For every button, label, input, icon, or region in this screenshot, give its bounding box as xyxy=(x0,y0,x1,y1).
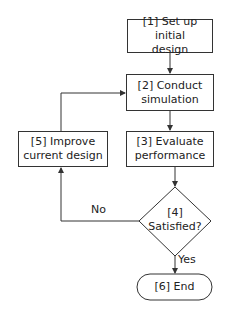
arrow-5-to-2 xyxy=(61,93,125,131)
node-3-line2: performance xyxy=(135,149,205,163)
node-conduct-simulation: [2] Conduct simulation xyxy=(126,74,214,111)
node-setup-initial-design: [1] Set up initial design xyxy=(127,19,213,53)
node-5-line1: [5] Improve xyxy=(31,135,95,149)
edge-label-yes: Yes xyxy=(178,253,196,266)
node-2-line2: simulation xyxy=(141,93,198,107)
node-6-label: [6] End xyxy=(155,280,195,294)
node-5-line2: current design xyxy=(23,149,103,163)
node-4-line1: [4] xyxy=(167,206,183,220)
node-evaluate-performance: [3] Evaluate performance xyxy=(126,131,214,167)
node-1-line1: [1] Set up initial xyxy=(128,15,212,43)
node-end: [6] End xyxy=(137,274,212,300)
node-improve-current-design: [5] Improve current design xyxy=(18,131,108,167)
node-1-line2: design xyxy=(152,43,189,57)
node-3-line1: [3] Evaluate xyxy=(136,135,203,149)
node-4-line2: Satisfied? xyxy=(148,220,201,234)
node-satisfied-decision: [4] Satisfied? xyxy=(139,200,211,240)
node-2-line1: [2] Conduct xyxy=(138,79,203,93)
edge-label-no: No xyxy=(91,203,106,216)
